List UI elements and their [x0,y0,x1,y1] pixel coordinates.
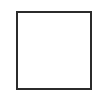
checkbox-square-icon[interactable] [16,11,92,90]
canvas [0,0,92,96]
